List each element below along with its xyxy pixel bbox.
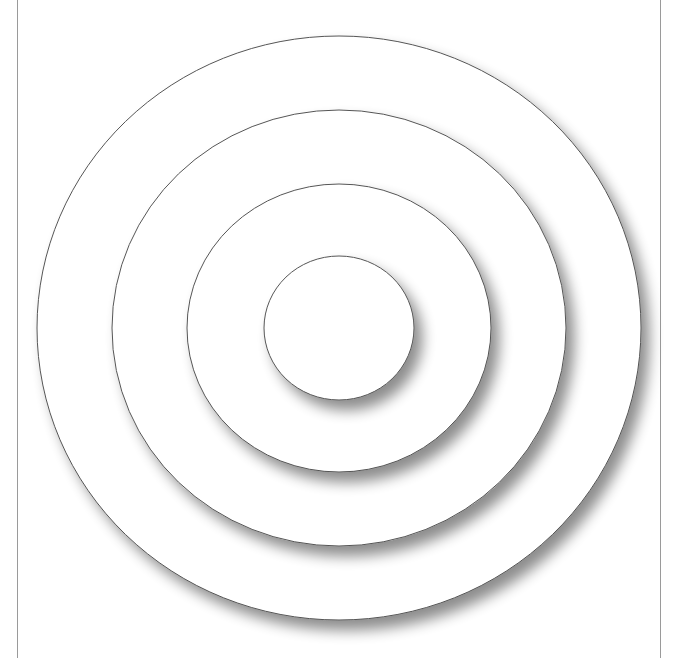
ring-4-inner — [264, 256, 414, 400]
